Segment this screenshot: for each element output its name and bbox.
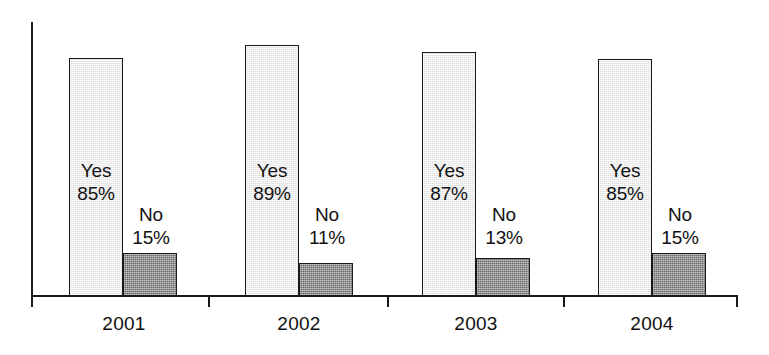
category-label-2004: 2004 [607, 313, 697, 335]
data-label-value: 89% [245, 182, 299, 205]
data-label-series-name: Yes [69, 159, 123, 182]
data-label-yes-2004: Yes 85% [598, 159, 652, 205]
data-label-value: 11% [299, 226, 355, 249]
data-label-series-name: No [123, 203, 179, 226]
bar-no-2004 [652, 253, 706, 296]
data-label-yes-2002: Yes 89% [245, 159, 299, 205]
plot-area: Yes 85% No 15% 2001 Yes 89% No 11% 2002 … [0, 0, 769, 355]
x-axis-tick [208, 296, 210, 307]
x-axis-tick [387, 296, 389, 307]
category-label-2001: 2001 [79, 313, 169, 335]
x-axis-tick [31, 296, 33, 307]
data-label-value: 87% [422, 182, 476, 205]
data-label-value: 15% [123, 226, 179, 249]
data-label-no-2003: No 13% [476, 203, 532, 249]
data-label-series-name: No [652, 203, 708, 226]
data-label-no-2004: No 15% [652, 203, 708, 249]
bar-chart: Yes 85% No 15% 2001 Yes 89% No 11% 2002 … [0, 0, 769, 355]
bar-no-2003 [476, 258, 530, 296]
data-label-value: 85% [598, 182, 652, 205]
data-label-value: 85% [69, 182, 123, 205]
category-label-2003: 2003 [431, 313, 521, 335]
data-label-series-name: No [476, 203, 532, 226]
data-label-series-name: Yes [598, 159, 652, 182]
data-label-no-2001: No 15% [123, 203, 179, 249]
data-label-yes-2003: Yes 87% [422, 159, 476, 205]
x-axis-tick [736, 296, 738, 307]
data-label-value: 15% [652, 226, 708, 249]
category-label-2002: 2002 [254, 313, 344, 335]
data-label-series-name: No [299, 203, 355, 226]
data-label-series-name: Yes [245, 159, 299, 182]
bar-no-2001 [123, 253, 177, 296]
y-axis-line [31, 22, 33, 296]
data-label-value: 13% [476, 226, 532, 249]
bar-no-2002 [299, 263, 353, 296]
data-label-yes-2001: Yes 85% [69, 159, 123, 205]
x-axis-tick [563, 296, 565, 307]
data-label-no-2002: No 11% [299, 203, 355, 249]
data-label-series-name: Yes [422, 159, 476, 182]
